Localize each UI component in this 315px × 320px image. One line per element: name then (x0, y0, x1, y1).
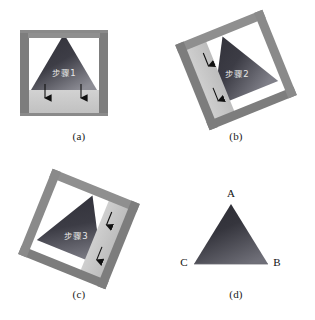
panel-a-step-label: 步骤1 (52, 68, 75, 78)
panel-c-artwork: 步骤3 (0, 159, 158, 289)
figure-container: 步骤1 (a) (0, 0, 315, 320)
vertex-label-a: A (227, 187, 235, 199)
panel-a-light-bar (28, 90, 100, 114)
panel-b: 步骤2 (b) (157, 0, 315, 160)
panel-c-step-label: 步骤3 (64, 231, 87, 241)
panel-c-stage: 步骤3 (0, 159, 158, 289)
panel-a-frame-top-cap (20, 30, 108, 33)
panel-d-triangle (194, 204, 268, 264)
panel-a-stage: 步骤1 (0, 0, 158, 130)
panel-c-caption: (c) (0, 288, 158, 300)
panel-a-frame-right (99, 30, 108, 116)
panel-a: 步骤1 (a) (0, 0, 158, 160)
panel-b-caption: (b) (157, 130, 315, 142)
panel-d-caption: (d) (157, 288, 315, 300)
vertex-label-b: B (273, 256, 280, 268)
panel-a-artwork: 步骤1 (0, 0, 158, 130)
panel-d: A B C (d) (157, 159, 315, 320)
panel-a-frame-left (20, 30, 29, 116)
panel-a-caption: (a) (0, 130, 158, 142)
panel-b-artwork: 步骤2 (157, 0, 315, 130)
panel-b-step-label: 步骤2 (225, 69, 248, 79)
vertex-label-c: C (180, 256, 187, 268)
panel-d-stage: A B C (157, 159, 315, 289)
panel-d-artwork: A B C (157, 159, 315, 289)
panel-c: 步骤3 (c) (0, 159, 158, 320)
panel-a-frame-bottom (20, 113, 108, 116)
panel-b-stage: 步骤2 (157, 0, 315, 130)
